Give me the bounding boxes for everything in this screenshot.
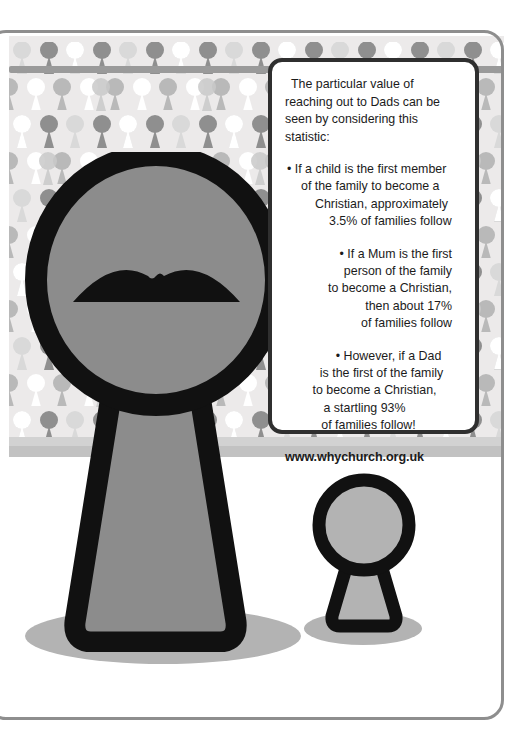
bullet-line: is the first of the family: [301, 365, 462, 382]
bullet-line: to become a Christian,: [285, 280, 452, 297]
card-bullet-child: • If a child is the first member of the …: [285, 161, 462, 231]
bullet-line: a startling 93%: [267, 400, 462, 417]
card-bullet-mum: • If a Mum is the first person of the fa…: [285, 246, 462, 333]
bullet-line: to become a Christian,: [287, 382, 462, 399]
child-keyhole-figure: [312, 471, 416, 636]
bullet-line: person of the family: [285, 263, 452, 280]
bullet-line: Christian, approximately: [315, 196, 462, 213]
bullet-line: If a Mum is the first: [347, 247, 452, 261]
bullet-line: of the family to become a: [301, 178, 462, 195]
bullet-marker: •: [336, 349, 340, 363]
card-intro-text: The particular value of reaching out to …: [285, 76, 462, 146]
bullet-line: However, if a Dad: [344, 349, 442, 363]
statistic-card: The particular value of reaching out to …: [268, 58, 479, 434]
website-url[interactable]: www.whychurch.org.uk: [285, 450, 462, 464]
bullet-line: If a child is the first member: [295, 162, 447, 176]
bullet-line: then about 17%: [285, 298, 452, 315]
card-bullet-dad: • However, if a Dad is the first of the …: [285, 348, 462, 435]
bullet-marker: •: [287, 162, 291, 176]
bullet-line: of families follow: [285, 315, 452, 332]
child-head: [319, 480, 409, 570]
dad-keyhole-figure: [18, 152, 293, 652]
bullet-marker: •: [340, 247, 344, 261]
poster-canvas: The particular value of reaching out to …: [0, 0, 530, 733]
bullet-line: 3.5% of families follow: [329, 213, 462, 230]
bullet-line: of families follow!: [275, 417, 462, 434]
